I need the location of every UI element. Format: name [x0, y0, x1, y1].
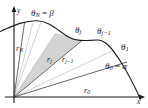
x-axis-label: x: [137, 98, 140, 106]
y-axis-label: y: [17, 7, 20, 15]
label-r-j: rj: [47, 56, 52, 65]
polar-sector-figure: y x θN = β θj θj−1 θ1 θ0 = α rN rj rj−1 …: [0, 0, 148, 108]
r-0-subscript: 0: [87, 89, 90, 95]
label-theta-j: θj: [75, 26, 81, 36]
label-theta-N: θN = β: [31, 9, 54, 19]
r-j-subscript: j: [50, 58, 52, 64]
theta-j-subscript: j: [79, 28, 81, 35]
y-axis-arrow: [12, 6, 17, 12]
label-r-0: r0: [84, 87, 90, 96]
label-theta-j-minus-1: θj−1: [97, 27, 111, 37]
theta-0-value: α: [122, 61, 127, 71]
theta-0-equals: =: [113, 61, 123, 71]
label-r-N: rN: [16, 45, 23, 54]
r-N-subscript: N: [19, 47, 23, 53]
r-j-minus-1-subscript: j−1: [65, 58, 73, 64]
theta-N-equals: =: [40, 8, 50, 18]
label-theta-0: θ0 = α: [105, 62, 127, 72]
theta-j-minus-1-subscript: j−1: [101, 29, 110, 36]
theta-1-subscript: 1: [125, 45, 128, 52]
label-theta-1: θ1: [121, 43, 129, 53]
label-r-j-minus-1: rj−1: [62, 56, 73, 65]
theta-N-value: β: [49, 8, 53, 18]
